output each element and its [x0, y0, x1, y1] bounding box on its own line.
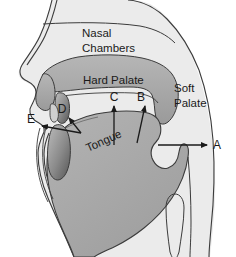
vocal-tract-diagram: Nasal Chambers Hard Palate Soft Palate T… — [0, 0, 236, 257]
label-point-b: B — [137, 90, 145, 104]
label-point-c: C — [110, 90, 119, 104]
label-point-d: D — [58, 102, 67, 116]
label-hard-palate: Hard Palate — [83, 74, 144, 86]
label-soft-palate-line1: Soft — [174, 82, 195, 94]
label-nasal-chambers-line1: Nasal — [82, 27, 111, 39]
diagram-canvas: Nasal Chambers Hard Palate Soft Palate T… — [0, 0, 236, 257]
label-soft-palate-line2: Palate — [174, 97, 207, 109]
floor-of-mouth-shape — [48, 125, 71, 180]
label-nasal-chambers-line2: Chambers — [82, 42, 135, 54]
label-point-e: E — [27, 112, 35, 126]
label-point-a: A — [213, 138, 221, 152]
